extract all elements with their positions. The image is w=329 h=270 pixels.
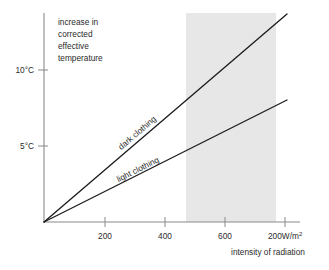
chart-background bbox=[0, 0, 329, 270]
x-tick-label-400: 400 bbox=[158, 231, 172, 241]
x-tick-label-600: 600 bbox=[218, 231, 232, 241]
block-title-line-1: increase in bbox=[58, 17, 99, 27]
chart-screenshot: 10°C 5°C 200 400 600 200W/m2 intensity o… bbox=[0, 0, 329, 270]
x-tick-label-200: 200 bbox=[98, 231, 112, 241]
block-title-line-3: effective bbox=[58, 41, 89, 51]
shaded-band-region bbox=[186, 13, 276, 222]
y-tick-label-10: 10°C bbox=[15, 65, 34, 75]
x-axis-title: intensity of radiation bbox=[231, 247, 305, 257]
x-tick-label-800-text: 200W/m bbox=[268, 231, 299, 241]
radiation-temperature-chart: 10°C 5°C 200 400 600 200W/m2 intensity o… bbox=[0, 0, 329, 270]
block-title-line-4: temperature bbox=[58, 53, 103, 63]
x-tick-label-800: 200W/m2 bbox=[268, 231, 303, 241]
block-title-line-2: corrected bbox=[58, 29, 93, 39]
y-tick-label-5: 5°C bbox=[20, 141, 34, 151]
